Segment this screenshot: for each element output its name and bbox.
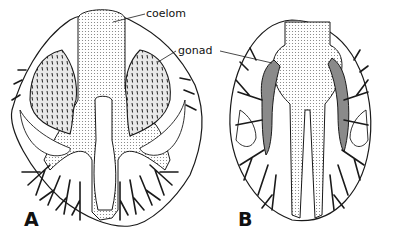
panel-b-label: B	[238, 210, 252, 229]
gonad-label: gonad	[178, 45, 212, 56]
coelom-label: coelom	[146, 8, 186, 19]
panel-a-diagram	[12, 10, 202, 227]
panel-a-label: A	[24, 210, 39, 229]
figure-canvas	[0, 0, 394, 237]
panel-b-diagram	[230, 20, 371, 221]
